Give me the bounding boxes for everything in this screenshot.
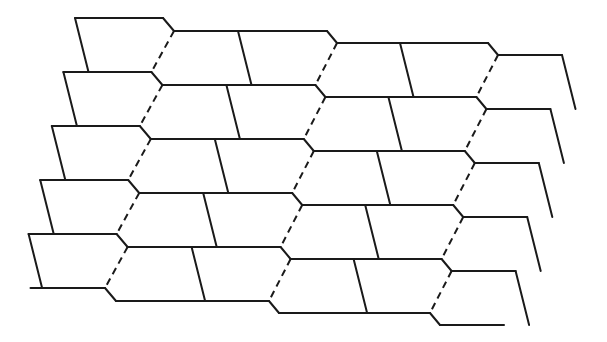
tiling-svg — [0, 0, 607, 342]
seam-notch-3 — [488, 43, 498, 55]
seam-dashed-3 — [476, 55, 498, 97]
seam-dashed-2 — [304, 97, 326, 139]
seam-notch-bottom-1 — [105, 288, 116, 301]
seam-notch-1 — [163, 18, 174, 31]
seam-dashed-3 — [453, 163, 475, 205]
left-block-left-edge — [63, 72, 77, 126]
seam-notch-1 — [128, 180, 139, 193]
middle-right-divider — [354, 259, 368, 313]
seam-notch-2 — [315, 85, 325, 97]
seam-dashed-1 — [117, 193, 140, 234]
right-block-right-edge — [539, 163, 553, 217]
seam-notch-3 — [476, 97, 486, 109]
left-block-left-edge — [40, 180, 54, 234]
middle-right-divider — [377, 151, 391, 205]
seam-dashed-2 — [292, 151, 314, 193]
left-block-left-edge — [29, 234, 42, 288]
seam-dashed-1 — [140, 85, 163, 126]
left-block-left-edge — [75, 18, 89, 72]
seam-notch-3 — [453, 205, 463, 217]
seam-dashed-2 — [269, 259, 291, 301]
seam-dashed-3 — [430, 271, 452, 313]
middle-left-divider — [226, 85, 240, 139]
seam-notch-3 — [442, 259, 452, 271]
seam-dashed-1 — [128, 139, 151, 180]
middle-right-divider — [388, 97, 402, 151]
seam-dashed-1 — [105, 247, 128, 288]
right-block-right-edge — [527, 217, 541, 271]
seam-notch-2 — [281, 247, 291, 259]
left-block-left-edge — [52, 126, 66, 180]
seam-notch-2 — [327, 31, 337, 43]
seam-notch-1 — [117, 234, 128, 247]
seam-notch-bottom-2 — [269, 301, 279, 313]
seam-dashed-3 — [465, 109, 487, 151]
seam-notch-bottom-3 — [430, 313, 440, 325]
middle-left-divider — [192, 247, 206, 301]
seam-notch-1 — [140, 126, 151, 139]
right-block-right-edge — [516, 271, 530, 325]
middle-right-divider — [400, 43, 414, 97]
seam-notch-2 — [304, 139, 314, 151]
right-block-right-edge — [562, 55, 576, 109]
seam-dashed-1 — [151, 31, 174, 72]
middle-left-divider — [238, 31, 252, 85]
seam-dashed-2 — [315, 43, 337, 85]
seam-notch-1 — [151, 72, 162, 85]
right-block-right-edge — [550, 109, 564, 163]
middle-right-divider — [365, 205, 379, 259]
seam-notch-2 — [292, 193, 302, 205]
seam-dashed-2 — [281, 205, 303, 247]
tiling-diagram — [0, 0, 607, 342]
dashed-seams — [105, 31, 498, 313]
seam-dashed-3 — [442, 217, 464, 259]
middle-left-divider — [215, 139, 229, 193]
seam-notch-3 — [465, 151, 475, 163]
middle-left-divider — [203, 193, 217, 247]
